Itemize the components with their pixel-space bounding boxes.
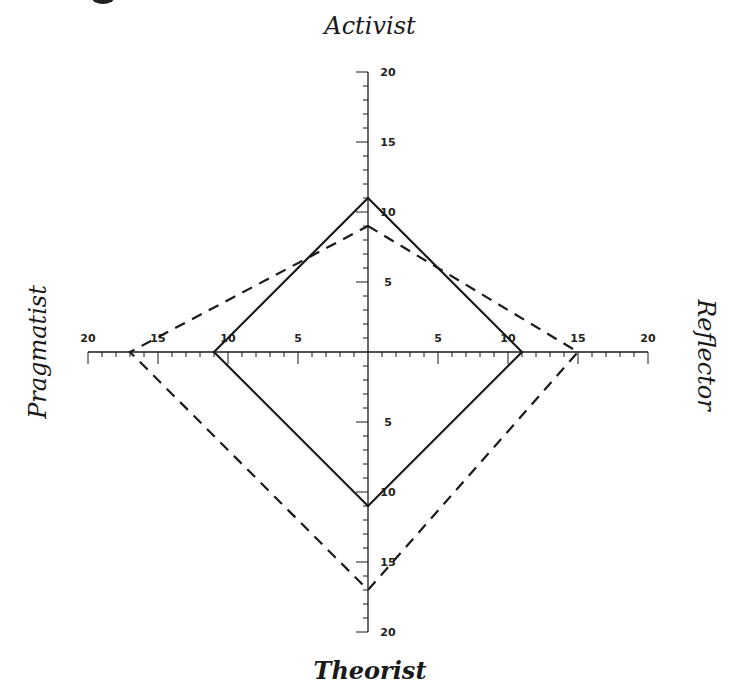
axis-label-activist: Activist xyxy=(0,12,740,40)
tick-label: 15 xyxy=(380,136,395,149)
series-dashed xyxy=(130,226,578,590)
radar-chart: 5555101010101515151520202020 Activist Re… xyxy=(0,0,740,698)
tick-label: 5 xyxy=(384,416,392,429)
axis-label-reflector: Reflector xyxy=(692,299,720,411)
axis-label-pragmatist: Pragmatist xyxy=(24,285,52,419)
tick-label: 20 xyxy=(380,66,396,79)
axis-label-theorist: Theorist xyxy=(0,656,740,685)
tick-label: 5 xyxy=(384,276,392,289)
tick-label: 20 xyxy=(640,332,656,345)
tick-label: 5 xyxy=(294,332,302,345)
tick-label: 5 xyxy=(434,332,442,345)
chart-plot-area: 5555101010101515151520202020 xyxy=(0,0,740,698)
tick-label: 20 xyxy=(80,332,96,345)
tick-label: 15 xyxy=(570,332,585,345)
tick-label: 20 xyxy=(380,626,396,639)
tick-label: 15 xyxy=(380,556,395,569)
